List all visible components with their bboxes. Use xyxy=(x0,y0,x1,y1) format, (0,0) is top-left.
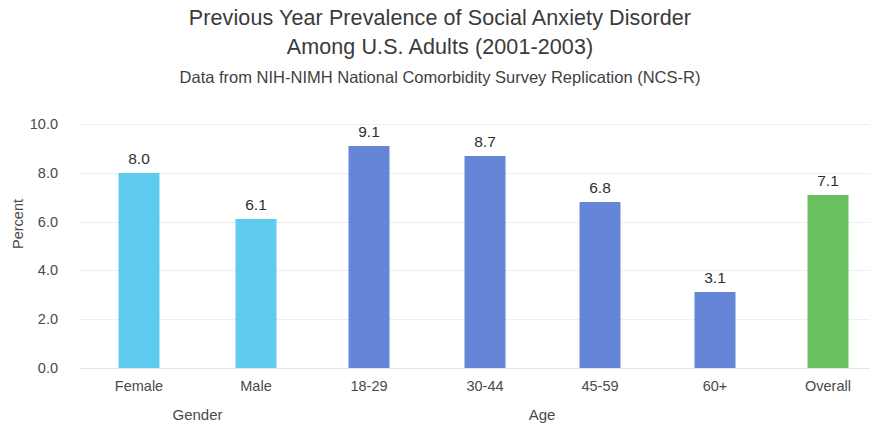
x-axis-tick-label: Female xyxy=(79,378,199,394)
gridline xyxy=(80,368,870,369)
plot-area: 10.08.06.04.02.00.08.06.19.18.76.83.17.1 xyxy=(80,124,870,368)
y-axis-tick-label: 2.0 xyxy=(0,311,58,327)
x-axis-tick-label: 30-44 xyxy=(425,378,545,394)
bar-value-label: 6.8 xyxy=(589,179,611,197)
bar-value-label: 6.1 xyxy=(245,196,267,214)
bar[interactable]: 8.7 xyxy=(465,156,506,368)
bar[interactable]: 3.1 xyxy=(695,292,736,368)
x-axis-tick-label: 60+ xyxy=(655,378,775,394)
x-axis-tick-label: 45-59 xyxy=(540,378,660,394)
bar-chart: Previous Year Prevalence of Social Anxie… xyxy=(0,0,880,432)
x-axis-tick-label: Overall xyxy=(768,378,880,394)
bar[interactable]: 6.8 xyxy=(580,202,621,368)
bar[interactable]: 7.1 xyxy=(808,195,849,368)
chart-title-block: Previous Year Prevalence of Social Anxie… xyxy=(0,4,880,90)
chart-title-line-1: Previous Year Prevalence of Social Anxie… xyxy=(0,4,880,33)
gridline xyxy=(80,124,870,125)
x-axis-group-label: Gender xyxy=(98,406,298,423)
bar[interactable]: 6.1 xyxy=(236,219,277,368)
y-axis-tick-label: 0.0 xyxy=(0,360,58,376)
bar-value-label: 9.1 xyxy=(358,123,380,141)
chart-title-line-2: Among U.S. Adults (2001-2003) xyxy=(0,33,880,62)
bar[interactable]: 8.0 xyxy=(119,173,160,368)
x-axis-tick-label: Male xyxy=(196,378,316,394)
bar[interactable]: 9.1 xyxy=(349,146,390,368)
x-axis-tick-label: 18-29 xyxy=(309,378,429,394)
bar-value-label: 8.7 xyxy=(474,133,496,151)
y-axis-tick-label: 8.0 xyxy=(0,165,58,181)
y-axis-tick-label: 10.0 xyxy=(0,116,58,132)
chart-subtitle: Data from NIH-NIMH National Comorbidity … xyxy=(0,65,880,90)
bar-value-label: 3.1 xyxy=(704,269,726,287)
y-axis-tick-label: 4.0 xyxy=(0,262,58,278)
bar-value-label: 8.0 xyxy=(128,150,150,168)
y-axis-tick-label: 6.0 xyxy=(0,214,58,230)
x-axis-group-label: Age xyxy=(442,406,642,423)
bar-value-label: 7.1 xyxy=(817,172,839,190)
